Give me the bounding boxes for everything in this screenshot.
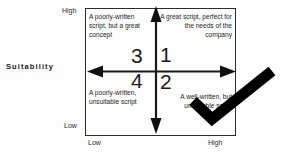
quadrant-3-number: 3	[131, 45, 143, 66]
quadrant-4-number: 4	[131, 70, 143, 91]
quadrant-2-number: 2	[160, 71, 172, 92]
quadrant-3-description: A poorly-written script, but a great con…	[89, 12, 147, 40]
quadrant-1-number: 1	[160, 44, 172, 65]
y-axis-title: Suitability	[6, 62, 84, 71]
y-axis-low-label: Low	[64, 122, 77, 129]
quadrant-1-description: A great script, perfect for the needs of…	[160, 12, 232, 40]
quadrant-2-description: A well-written, but unsuitable script	[162, 92, 232, 110]
y-axis-high-label: High	[62, 7, 76, 14]
x-axis-low-label: Low	[88, 139, 101, 146]
suitability-matrix-diagram: Suitability High Low Low High A poorly-w…	[0, 0, 282, 156]
x-axis-high-label: High	[208, 139, 222, 146]
